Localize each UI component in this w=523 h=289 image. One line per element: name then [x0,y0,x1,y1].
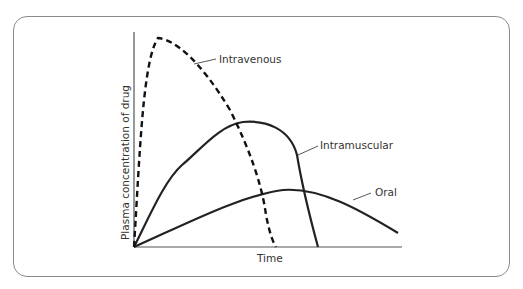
oral-leader-line [353,193,371,200]
intramuscular-curve [134,122,318,247]
iv-leader-line [194,59,216,64]
im-leader-line [298,146,318,155]
x-axis-label: Time [256,252,283,264]
y-axis-label: Plasma concentration of drug [119,85,131,240]
pk-chart: Intravenous Intramuscular Oral Time Plas… [0,0,523,289]
im-label: Intramuscular [320,139,394,151]
iv-label: Intravenous [219,53,282,65]
oral-label: Oral [375,186,397,198]
